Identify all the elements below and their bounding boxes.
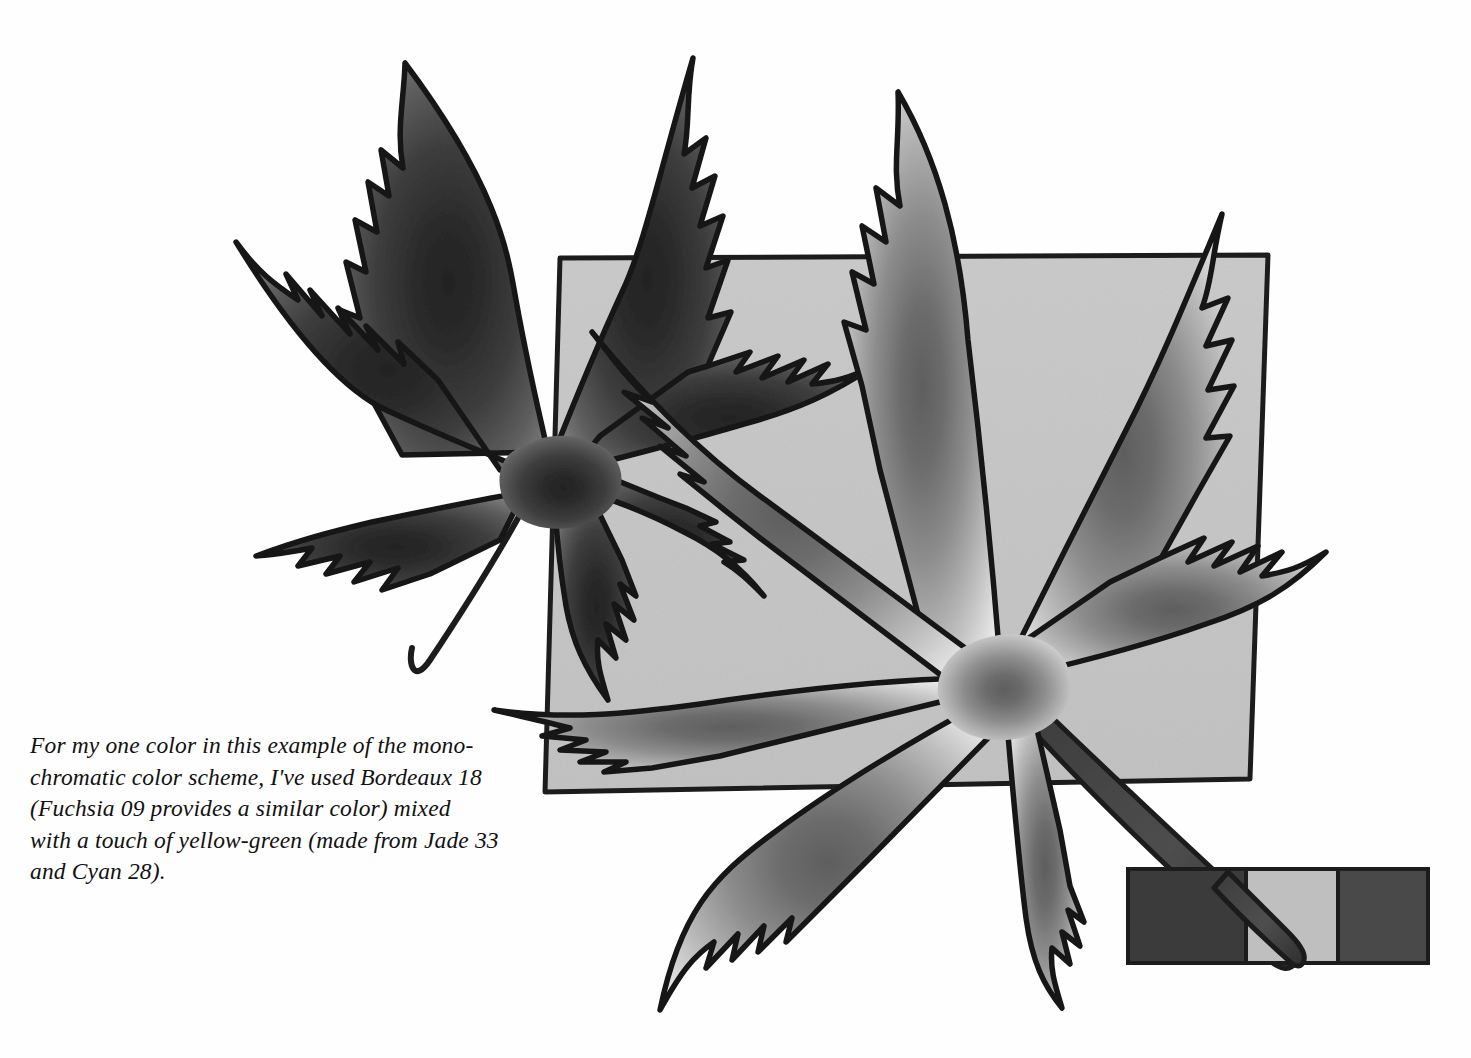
illustration-plate: For my one color in this example of the … xyxy=(0,0,1471,1058)
plate-caption: For my one color in this example of the … xyxy=(30,730,500,888)
leaf-artwork xyxy=(0,0,1471,1058)
